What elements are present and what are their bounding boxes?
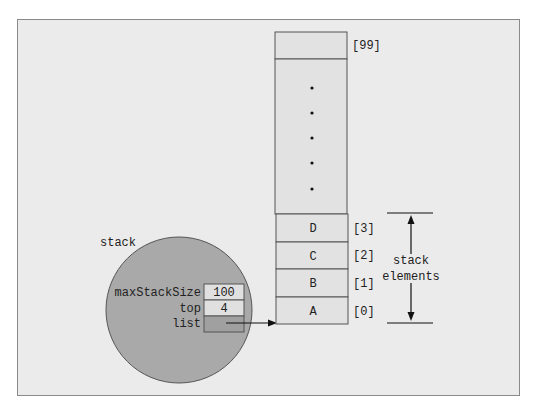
- array-cell-99: [275, 32, 347, 59]
- stack-label: stack: [100, 236, 136, 250]
- maxstacksize-label: maxStackSize: [115, 286, 201, 300]
- index-label-2: [2]: [353, 249, 375, 263]
- arrow-up-icon: [408, 215, 415, 224]
- cell-value-1: B: [309, 277, 316, 291]
- cell-value-0: A: [309, 305, 317, 319]
- index-label-99: [99]: [352, 39, 381, 53]
- top-value: 4: [220, 302, 227, 316]
- cell-value-2: C: [309, 250, 316, 264]
- index-label-3: [3]: [353, 222, 375, 236]
- bracket-label-line2: elements: [382, 270, 440, 284]
- list-box: [204, 316, 244, 332]
- cell-value-3: D: [309, 222, 316, 236]
- list-label: list: [172, 317, 201, 331]
- bracket-label-line1: stack: [393, 254, 429, 268]
- maxstacksize-value: 100: [213, 286, 235, 300]
- index-label-0: [0]: [353, 305, 375, 319]
- stack-diagram: stack maxStackSize 100 top 4 list D C B …: [0, 0, 538, 410]
- array-ellipsis-region: [275, 59, 347, 214]
- index-label-1: [1]: [353, 277, 375, 291]
- top-label: top: [179, 302, 201, 316]
- arrow-down-icon: [408, 312, 415, 321]
